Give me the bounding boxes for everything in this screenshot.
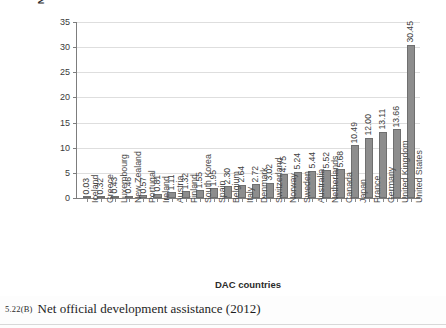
gridline: [77, 97, 420, 98]
chart-figure: Net ODA ($US billions) 05101520253035 0.…: [0, 0, 446, 296]
category-label: United Kingdom: [401, 140, 410, 203]
y-tick-label: 0: [65, 194, 70, 203]
caption: 5.22(B) Net official development assista…: [0, 298, 446, 320]
x-tick-mark: [341, 199, 342, 202]
x-tick-mark: [383, 199, 384, 202]
y-tick-label: 35: [60, 18, 70, 27]
bar-value-label: 10.49: [350, 122, 359, 144]
y-tick-label: 10: [60, 143, 70, 152]
x-tick-mark: [228, 199, 229, 202]
bar-value-label: 13.11: [378, 109, 387, 130]
x-tick-mark: [87, 199, 88, 202]
y-tick-mark: [73, 123, 76, 124]
caption-number: 5.22(B): [5, 304, 33, 314]
bar-value-label: 5.24: [294, 153, 303, 170]
y-tick-mark: [73, 47, 76, 48]
bar-value-label: 30.45: [407, 21, 416, 43]
gridline: [77, 72, 420, 73]
category-label: Japan: [359, 179, 368, 203]
x-tick-mark: [270, 199, 271, 202]
y-tick-label: 15: [60, 118, 70, 127]
category-label: Netherlands: [331, 156, 340, 203]
category-label: Spain: [218, 181, 227, 204]
x-axis-title: DAC countries: [76, 279, 420, 290]
x-tick-mark: [256, 199, 257, 202]
y-tick-label: 25: [60, 68, 70, 77]
caption-text: Net official development assistance (201…: [38, 301, 261, 317]
category-label: Sweden: [303, 171, 312, 203]
category-label: Canada: [345, 172, 354, 203]
x-tick-mark: [101, 199, 102, 202]
x-tick-mark: [242, 199, 243, 202]
y-tick-mark: [73, 97, 76, 98]
x-tick-mark: [186, 199, 187, 202]
category-label: Iceland: [91, 175, 100, 203]
x-tick-mark: [143, 199, 144, 202]
x-tick-mark: [326, 199, 327, 202]
x-tick-mark: [284, 199, 285, 202]
x-tick-mark: [397, 199, 398, 202]
figure-page: Net ODA ($US billions) 05101520253035 0.…: [0, 0, 446, 328]
x-tick-mark: [172, 199, 173, 202]
category-label: France: [373, 176, 382, 203]
y-tick-label: 5: [65, 168, 70, 177]
category-label: Portugal: [148, 170, 157, 203]
x-tick-mark: [355, 199, 356, 202]
category-label: Greece: [106, 174, 115, 203]
category-label: Germany: [387, 167, 396, 203]
category-label: Denmark: [260, 167, 269, 203]
x-tick-mark: [214, 199, 215, 202]
bar-value-label: 13.66: [392, 106, 401, 128]
gridline: [77, 22, 420, 23]
y-tick-mark: [73, 148, 76, 149]
category-label: Austria: [176, 176, 185, 203]
x-tick-mark: [298, 199, 299, 202]
y-tick-mark: [73, 198, 76, 199]
category-label: Switzerland: [275, 158, 284, 203]
y-tick-mark: [73, 173, 76, 174]
category-label: South Korea: [204, 154, 213, 203]
y-tick-label: 30: [60, 43, 70, 52]
category-label: Norway: [289, 173, 298, 203]
category-label: Belgium: [232, 171, 241, 203]
x-tick-mark: [129, 199, 130, 202]
bar-value-label: 12.00: [364, 114, 373, 136]
x-tick-mark: [312, 199, 313, 202]
category-label: New Zealand: [134, 151, 143, 203]
category-label: Finland: [190, 174, 199, 203]
category-label: United States: [415, 150, 424, 203]
x-tick-mark: [200, 199, 201, 202]
x-tick-mark: [369, 199, 370, 202]
category-label: Italy: [246, 187, 255, 203]
y-axis-title: Net ODA ($US billions): [34, 0, 48, 32]
page-divider: [0, 324, 446, 325]
category-label: Australia: [317, 169, 326, 203]
y-tick-mark: [73, 22, 76, 23]
y-tick-mark: [73, 72, 76, 73]
y-tick-label: 20: [60, 93, 70, 102]
bar-value-label: 5.44: [308, 152, 317, 169]
category-label: Luxembourg: [120, 154, 129, 203]
x-tick-mark: [115, 199, 116, 202]
gridline: [77, 47, 420, 48]
plot-area: 05101520253035 0.030.320.430.460.570.811…: [76, 22, 420, 199]
category-label: Ireland: [162, 176, 171, 203]
x-tick-mark: [157, 199, 158, 202]
x-tick-mark: [411, 199, 412, 202]
